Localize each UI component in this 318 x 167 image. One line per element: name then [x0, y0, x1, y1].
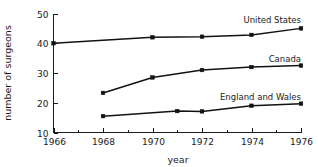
data-point [200, 110, 204, 114]
data-point [151, 76, 155, 80]
data-point [52, 41, 56, 45]
data-point [299, 102, 303, 106]
x-tick-label: 1974 [241, 137, 264, 147]
data-point [299, 64, 303, 68]
series-label-canada: Canada [269, 54, 301, 64]
data-point [200, 35, 204, 39]
y-tick-label: 50 [37, 10, 49, 20]
x-axis-title: year [167, 154, 188, 165]
data-point [299, 27, 303, 31]
y-tick-label: 20 [37, 99, 49, 109]
data-point [250, 65, 254, 69]
x-axis: 196619681970197219741976 [43, 128, 313, 147]
x-tick-label: 1976 [290, 137, 313, 147]
data-point [250, 104, 254, 108]
y-axis-title: number of surgeons [2, 25, 13, 121]
x-tick-label: 1966 [43, 137, 66, 147]
series-label-england-and-wales: England and Wales [220, 92, 302, 102]
y-tick-label: 40 [37, 39, 49, 49]
data-point [101, 114, 105, 118]
x-tick-label: 1972 [191, 137, 214, 147]
surgeons-line-chart: 1020304050 196619681970197219741976 year… [0, 0, 318, 167]
series-line-0 [54, 28, 302, 43]
x-tick-label: 1968 [92, 137, 115, 147]
chart-canvas: 1020304050 196619681970197219741976 year… [0, 0, 318, 167]
y-tick-label: 30 [37, 69, 49, 79]
x-tick-label-group: 196619681970197219741976 [43, 137, 313, 147]
series-label-united-states: United States [243, 15, 301, 25]
data-point [250, 33, 254, 37]
series-united-states [52, 27, 303, 45]
series-layer [52, 27, 303, 118]
data-point [200, 68, 204, 72]
data-point [101, 91, 105, 95]
y-tick-label-group: 1020304050 [37, 10, 49, 139]
y-axis: 1020304050 [37, 10, 57, 139]
series-canada [101, 64, 303, 95]
data-point [151, 36, 155, 40]
series-england-and-wales [101, 102, 303, 118]
y-tick-group [54, 15, 58, 134]
x-tick-label: 1970 [142, 137, 165, 147]
data-point [175, 109, 179, 113]
